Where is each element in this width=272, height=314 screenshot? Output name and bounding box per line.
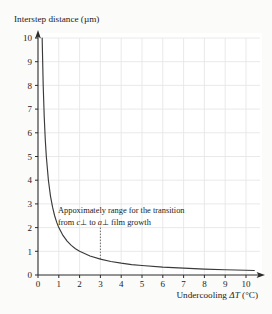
x-tick-label: 9	[223, 279, 228, 289]
x-tick-label: 5	[140, 279, 145, 289]
x-tick-label: 8	[202, 279, 207, 289]
x-tick-label: 7	[181, 279, 186, 289]
annotation-from: from	[58, 218, 76, 227]
y-tick-label: 9	[28, 57, 33, 67]
y-tick-label: 4	[28, 175, 33, 185]
y-tick-label: 8	[28, 81, 33, 91]
interstep-distance-chart: 012345678910 012345678910 Interstep dist…	[0, 0, 272, 314]
annotation-line-2: from c⊥ to a⊥ film growth	[58, 218, 152, 227]
x-axis-label-prefix: Undercooling	[176, 290, 229, 300]
y-tick-label: 7	[28, 104, 33, 114]
x-axis-label: Undercooling ΔT (°C)	[176, 290, 258, 300]
x-tick-label: 0	[36, 279, 41, 289]
y-tick-label: 3	[28, 199, 33, 209]
chart-figure: 012345678910 012345678910 Interstep dist…	[0, 0, 272, 314]
x-tick-label: 1	[57, 279, 62, 289]
annotation-mid: ⊥ to	[80, 218, 98, 227]
annotation-tail: ⊥ film growth	[102, 218, 152, 227]
y-tick-label: 6	[28, 128, 33, 138]
x-tick-label: 4	[119, 279, 124, 289]
y-tick-label: 0	[28, 270, 33, 280]
x-tick-label: 3	[98, 279, 103, 289]
annotation-line-1: Appoximately range for the transition	[58, 206, 185, 215]
plot-area-background	[38, 33, 262, 275]
x-tick-label: 10	[242, 279, 252, 289]
x-tick-label: 6	[161, 279, 166, 289]
y-tick-label: 5	[28, 152, 33, 162]
y-axis-label: Interstep distance (µm)	[14, 14, 99, 24]
y-tick-label: 2	[28, 223, 33, 233]
x-tick-label: 2	[77, 279, 82, 289]
y-tick-label: 1	[28, 247, 33, 257]
x-axis-label-suffix: (°C)	[240, 290, 258, 300]
y-tick-label: 10	[23, 33, 33, 43]
